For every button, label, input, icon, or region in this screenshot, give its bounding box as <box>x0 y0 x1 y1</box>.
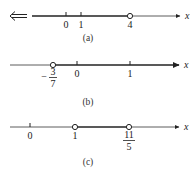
caption-a: (a) <box>83 33 94 44</box>
number-line-a: 0 1 4 x (a) <box>10 10 190 44</box>
number-line-c: 0 1 11 5 x (c) <box>10 121 189 168</box>
tick-label-1-b: 1 <box>128 68 133 79</box>
point-label-neg-3-7-b: − 3 7 <box>41 66 57 89</box>
caption-b: (b) <box>82 97 93 108</box>
open-point-4-a <box>127 13 132 18</box>
axis-label-b: x <box>183 59 189 70</box>
number-line-figures: 0 1 4 x (a) − 3 7 0 1 x (b) <box>0 0 196 178</box>
fraction-numerator: 3 <box>51 66 56 77</box>
fraction-numerator: 11 <box>124 129 134 140</box>
point-label-1-c: 1 <box>73 130 78 141</box>
axis-label-a: x <box>184 10 190 21</box>
fraction-denominator: 5 <box>127 141 132 152</box>
tick-label-0-c: 0 <box>28 130 33 141</box>
fraction-sign: − <box>41 71 47 82</box>
point-label-4-a: 4 <box>128 19 133 30</box>
tick-label-0-a: 0 <box>64 19 69 30</box>
point-label-11-5-c: 11 5 <box>123 129 135 152</box>
number-line-b: − 3 7 0 1 x (b) <box>10 59 189 108</box>
open-point-1-c <box>72 124 77 129</box>
caption-c: (c) <box>83 157 94 168</box>
tick-label-1-a: 1 <box>79 19 84 30</box>
tick-label-0-b: 0 <box>75 68 80 79</box>
double-left-arrow-icon <box>10 12 27 21</box>
axis-label-c: x <box>183 121 189 132</box>
fraction-denominator: 7 <box>51 78 56 89</box>
